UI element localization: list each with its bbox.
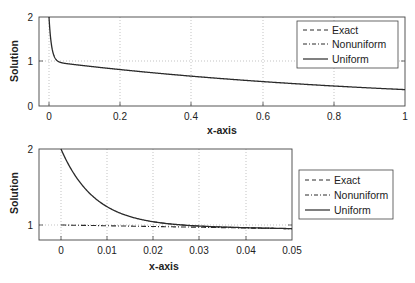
bottom-plot: 2 1 0 0.01 0.02 0.03 0.04 0.05 x-axis So… <box>8 144 393 272</box>
top-ytick-0: 0 <box>27 101 33 112</box>
bottom-legend-nonuniform: Nonuniform <box>334 189 389 201</box>
top-xtick-4: 0.8 <box>327 111 341 122</box>
top-y-axis-label: Solution <box>8 40 20 82</box>
top-ytick-1: 1 <box>27 56 33 67</box>
top-legend-nonuniform: Nonuniform <box>332 38 387 50</box>
bottom-curve-uniform <box>61 149 292 229</box>
bottom-legend: Exact Nonuniform Uniform <box>299 170 393 219</box>
bottom-xtick-4: 0.04 <box>236 245 256 256</box>
bottom-x-axis-label: x-axis <box>149 260 179 272</box>
top-ytick-2: 2 <box>27 12 33 23</box>
bottom-xtick-0: 0 <box>58 245 64 256</box>
bottom-ytick-2: 2 <box>27 144 33 155</box>
top-xtick-0: 0 <box>46 111 52 122</box>
bottom-xtick-1: 0.01 <box>97 245 117 256</box>
bottom-y-axis-label: Solution <box>8 172 20 214</box>
bottom-legend-uniform: Uniform <box>334 204 371 216</box>
top-x-axis-label: x-axis <box>207 124 237 136</box>
top-xtick-5: 1 <box>402 111 408 122</box>
top-legend: Exact Nonuniform Uniform <box>297 21 398 68</box>
bottom-xtick-2: 0.02 <box>143 245 163 256</box>
bottom-legend-exact: Exact <box>334 174 360 186</box>
figure: 2 1 0 0 0.2 0.4 0.6 0.8 1 x-axis Solutio… <box>0 0 415 283</box>
bottom-xtick-5: 0.05 <box>282 245 302 256</box>
top-legend-uniform: Uniform <box>332 53 369 65</box>
top-plot: 2 1 0 0 0.2 0.4 0.6 0.8 1 x-axis Solutio… <box>8 12 408 136</box>
top-xtick-3: 0.6 <box>256 111 270 122</box>
top-legend-exact: Exact <box>332 24 358 36</box>
bottom-ytick-1: 1 <box>27 220 33 231</box>
top-xtick-2: 0.4 <box>184 111 198 122</box>
bottom-xtick-3: 0.03 <box>189 245 209 256</box>
top-xtick-1: 0.2 <box>113 111 127 122</box>
